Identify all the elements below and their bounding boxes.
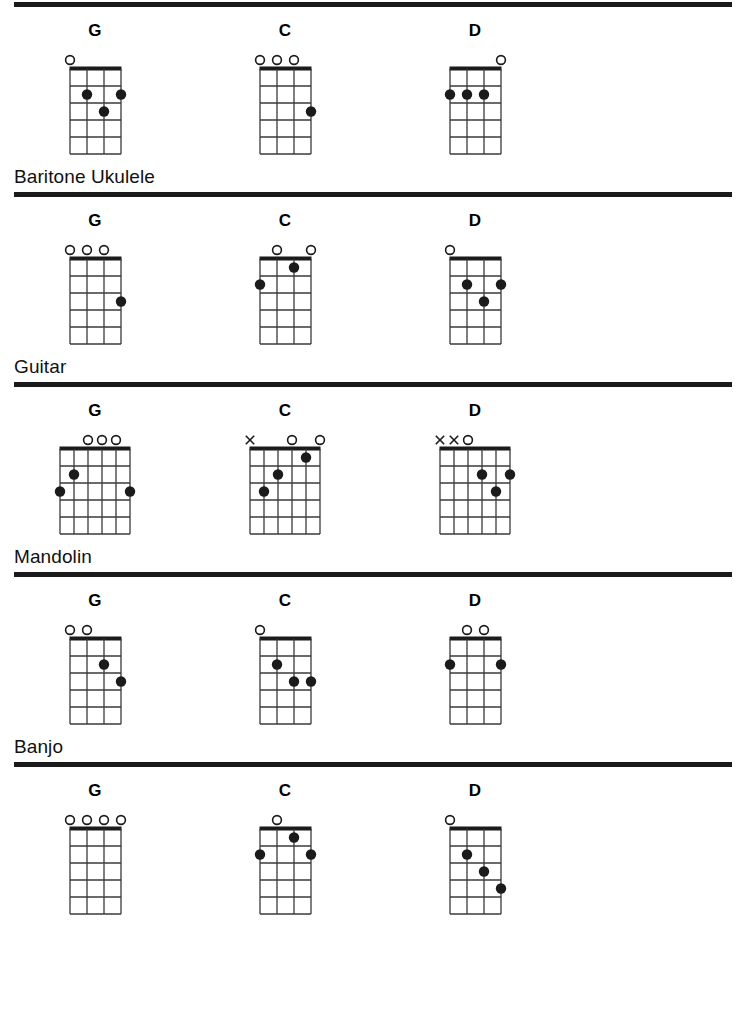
finger-dot: [115, 89, 125, 99]
finger-dot: [98, 659, 108, 669]
open-string-marker: [445, 816, 454, 825]
open-string-marker: [99, 816, 108, 825]
finger-dot: [491, 486, 501, 496]
muted-string-marker: [246, 436, 254, 444]
open-string-marker: [288, 436, 297, 445]
instrument-section-guitar: GuitarGCD: [0, 350, 746, 540]
chord-diagram-c: [246, 43, 325, 160]
chord-diagram-wrap: [436, 613, 515, 730]
chord-name: G: [88, 401, 102, 421]
open-string-marker: [272, 56, 281, 65]
finger-dot: [271, 659, 281, 669]
muted-string-marker: [450, 436, 458, 444]
chord-name: G: [88, 21, 102, 41]
chord-cell: C: [190, 591, 380, 730]
chord-diagram-c: [246, 233, 325, 350]
finger-dot: [259, 486, 269, 496]
chord-name: G: [88, 781, 102, 801]
chord-diagram-d: [426, 423, 524, 540]
chord-diagram-g: [56, 43, 135, 160]
finger-dot: [55, 486, 65, 496]
chord-diagram-g: [56, 613, 135, 730]
open-string-marker: [272, 816, 281, 825]
instrument-section-banjo: BanjoGCD: [0, 730, 746, 920]
instrument-section-baritone-ukulele: Baritone UkuleleGCD: [0, 160, 746, 350]
chord-name: C: [279, 591, 292, 611]
chord-diagram-wrap: [246, 803, 325, 920]
finger-dot: [461, 849, 471, 859]
chord-diagram-wrap: [56, 803, 135, 920]
chord-diagram-wrap: [246, 43, 325, 160]
open-string-marker: [255, 56, 264, 65]
open-string-marker: [82, 626, 91, 635]
finger-dot: [125, 486, 135, 496]
open-string-marker: [272, 246, 281, 255]
chord-name: D: [469, 781, 482, 801]
open-string-marker: [65, 626, 74, 635]
chord-row: GCD: [0, 767, 746, 920]
finger-dot: [478, 296, 488, 306]
chord-diagram-wrap: [426, 423, 524, 540]
open-string-marker: [65, 816, 74, 825]
open-string-marker: [84, 436, 93, 445]
finger-dot: [288, 262, 298, 272]
chord-cell: D: [380, 401, 570, 540]
finger-dot: [495, 883, 505, 893]
finger-dot: [461, 279, 471, 289]
finger-dot: [98, 106, 108, 116]
finger-dot: [444, 659, 454, 669]
chord-name: C: [279, 211, 292, 231]
open-string-marker: [445, 246, 454, 255]
finger-dot: [305, 849, 315, 859]
finger-dot: [254, 849, 264, 859]
chord-cell: C: [190, 781, 380, 920]
finger-dot: [305, 106, 315, 116]
chord-cell: C: [190, 21, 380, 160]
finger-dot: [115, 676, 125, 686]
chord-name: D: [469, 401, 482, 421]
open-string-marker: [98, 436, 107, 445]
chord-row: GCD: [0, 7, 746, 160]
finger-dot: [305, 676, 315, 686]
finger-dot: [478, 89, 488, 99]
chord-diagram-c: [246, 803, 325, 920]
chord-diagram-wrap: [246, 233, 325, 350]
chord-diagram-wrap: [56, 233, 135, 350]
chord-diagram-wrap: [436, 233, 515, 350]
chord-row: GCD: [0, 577, 746, 730]
open-string-marker: [496, 56, 505, 65]
open-string-marker: [462, 626, 471, 635]
instrument-label: Mandolin: [0, 540, 746, 570]
finger-dot: [273, 469, 283, 479]
finger-dot: [81, 89, 91, 99]
chord-chart-page: GCDBaritone UkuleleGCDGuitarGCDMandolinG…: [0, 2, 746, 1017]
chord-row: GCD: [0, 387, 746, 540]
chord-name: C: [279, 401, 292, 421]
open-string-marker: [255, 626, 264, 635]
chord-name: D: [469, 211, 482, 231]
chord-name: C: [279, 21, 292, 41]
instrument-section-mandolin: MandolinGCD: [0, 540, 746, 730]
open-string-marker: [316, 436, 325, 445]
finger-dot: [301, 452, 311, 462]
chord-cell: C: [190, 211, 380, 350]
chord-name: C: [279, 781, 292, 801]
chord-cell: G: [0, 21, 190, 160]
open-string-marker: [82, 816, 91, 825]
chord-diagram-wrap: [436, 43, 515, 160]
chord-cell: D: [380, 211, 570, 350]
open-string-marker: [65, 246, 74, 255]
instrument-label: Banjo: [0, 730, 746, 760]
instrument-label: Baritone Ukulele: [0, 160, 746, 190]
finger-dot: [477, 469, 487, 479]
chord-cell: G: [0, 401, 190, 540]
chord-cell: D: [380, 591, 570, 730]
open-string-marker: [464, 436, 473, 445]
chord-diagram-d: [436, 233, 515, 350]
finger-dot: [495, 279, 505, 289]
chord-diagram-c: [246, 613, 325, 730]
chord-name: D: [469, 21, 482, 41]
chord-diagram-c: [236, 423, 334, 540]
open-string-marker: [479, 626, 488, 635]
chord-diagram-d: [436, 613, 515, 730]
